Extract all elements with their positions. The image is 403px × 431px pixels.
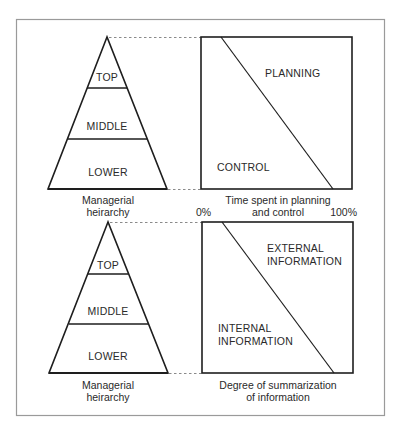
axis-max-label: 100% [330, 206, 357, 218]
box-caption-line2: of information [246, 391, 310, 403]
internal-label-line1: INTERNAL [218, 322, 272, 334]
bottom-box: EXTERNAL INFORMATION INTERNAL INFORMATIO… [202, 222, 353, 403]
box-caption-line1: Degree of summarization [219, 379, 336, 391]
pyramid-caption-line2: heirarchy [86, 206, 130, 218]
pyramid-level-lower: LOWER [88, 166, 128, 178]
management-pyramid-diagram: TOP MIDDLE LOWER Managerial heirarchy PL… [0, 0, 403, 431]
pyramid-caption-line1: Managerial [82, 379, 134, 391]
pyramid-level-top: TOP [97, 259, 119, 271]
bottom-pyramid: TOP MIDDLE LOWER Managerial heirarchy [49, 222, 168, 403]
box-caption-line1: Time spent in planning [225, 194, 330, 206]
pyramid-level-lower: LOWER [88, 350, 128, 362]
top-panel: TOP MIDDLE LOWER Managerial heirarchy PL… [48, 37, 357, 218]
external-label-line1: EXTERNAL [267, 242, 324, 254]
pyramid-caption-line2: heirarchy [86, 391, 130, 403]
pyramid-level-middle: MIDDLE [88, 305, 129, 317]
axis-min-label: 0% [196, 206, 211, 218]
external-label-line2: INFORMATION [267, 255, 342, 267]
bottom-panel: TOP MIDDLE LOWER Managerial heirarchy EX… [49, 222, 353, 403]
top-box: PLANNING CONTROL Time spent in planning … [196, 37, 357, 218]
internal-label-line2: INFORMATION [218, 335, 293, 347]
top-pyramid: TOP MIDDLE LOWER Managerial heirarchy [48, 37, 167, 218]
planning-label: PLANNING [265, 67, 320, 79]
pyramid-level-top: TOP [96, 71, 118, 83]
control-label: CONTROL [217, 161, 270, 173]
pyramid-caption-line1: Managerial [82, 194, 134, 206]
box-caption-line2: and control [252, 206, 304, 218]
pyramid-level-middle: MIDDLE [87, 120, 128, 132]
